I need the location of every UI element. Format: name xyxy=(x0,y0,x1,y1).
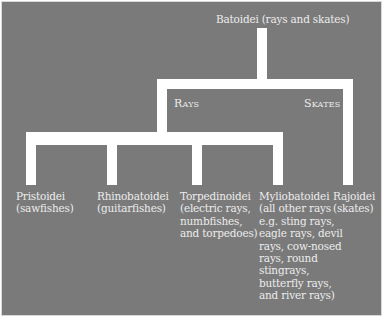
leaf-name: Torpedinoidei xyxy=(180,190,258,202)
leaf-desc: (all other rays e.g. sting rays, eagle r… xyxy=(259,202,343,301)
leaf-pristoidei: Pristoidei (sawfishes) xyxy=(16,190,74,215)
leaf-desc: (guitarfishes) xyxy=(97,202,169,214)
leaf-rajoidei: Rajoidei (skates) xyxy=(333,190,375,215)
skates-stem xyxy=(343,79,353,185)
leaf-myliobatoidei: Myliobatoidei (all other rays e.g. sting… xyxy=(259,190,343,302)
leaf-name: Rajoidei xyxy=(333,190,375,202)
top-branch xyxy=(157,79,353,89)
group-label-skates: Skates xyxy=(304,98,340,110)
root-stem xyxy=(257,28,267,84)
leaf-desc: (sawfishes) xyxy=(16,202,74,214)
rays-stem xyxy=(157,79,167,139)
group-label-rays: Rays xyxy=(174,98,199,110)
leaf-name: Pristoidei xyxy=(16,190,74,202)
leaf-rhinobatoidei: Rhinobatoidei (guitarfishes) xyxy=(97,190,169,215)
leaf-name: Myliobatoidei xyxy=(259,190,343,202)
torpedinoidei-stem xyxy=(192,132,202,185)
root-label: Batoidei (rays and skates) xyxy=(216,13,349,25)
leaf-desc: (skates) xyxy=(333,202,375,214)
leaf-name: Rhinobatoidei xyxy=(97,190,169,202)
rays-branch xyxy=(26,132,283,145)
myliobatoidei-stem xyxy=(273,132,283,185)
rhinobatoidei-stem xyxy=(107,132,117,185)
leaf-desc: (electric rays, numbfishes, and torpedoe… xyxy=(180,202,258,239)
pristoidei-stem xyxy=(26,132,36,185)
leaf-torpedinoidei: Torpedinoidei (electric rays, numbfishes… xyxy=(180,190,258,240)
